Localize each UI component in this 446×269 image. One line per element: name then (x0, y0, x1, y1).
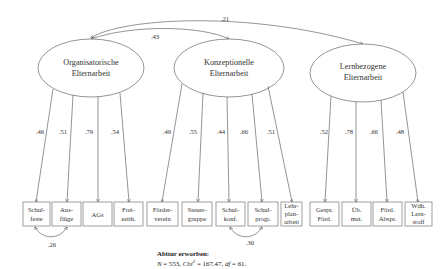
indicator-foerdabspr-l1: Förd. (380, 206, 394, 213)
latent-factor-lernbezogene: Lernbezogene Elternarbeit (310, 44, 416, 102)
indicator-ausfluege-l2: flüge (60, 215, 74, 222)
loading-value: .46 (36, 128, 45, 135)
indicator-schulprogr-l2: progr. (255, 215, 271, 222)
indicator-lehrplanarbeit-l3: arbeit (284, 218, 299, 225)
indicator-wdhlernstoff-l3: stoff (413, 218, 426, 225)
latent-factor-organisatorische: Organisatorische Elternarbeit (38, 39, 144, 97)
figure-caption: Abitur erworben: N = 553, Chi2 = 167.47,… (157, 250, 246, 268)
loading-value: .54 (111, 128, 120, 135)
indicator-wdhlernstoff-l2: Lern- (411, 210, 426, 217)
caption-n-value: = 553, (162, 260, 183, 267)
indicator-schulprogr-l1: Schul- (254, 206, 271, 213)
indicator-lehrplanarbeit-l1: Lehr- (284, 202, 299, 209)
indicator-schulfeste-l2: feste (30, 215, 43, 222)
indicator-lehrplanarbeit-l2: plan- (285, 210, 299, 217)
loading-value: .55 (189, 128, 198, 135)
loading-value: .66 (370, 128, 379, 135)
loading-value: .51 (59, 128, 67, 135)
loading-values: .46 .51 .79 .54 .49 .55 .44 .66 .51 .52 … (36, 128, 405, 135)
loading-value: .52 (320, 128, 328, 135)
caption-fit-stats: N = 553, Chi2 = 167.47, df = 61. (157, 258, 246, 268)
correlation-value-org-konz: .43 (151, 33, 160, 40)
indicator-gesprfoerd-l1: Gespr. (316, 206, 333, 213)
indicator-freizeit-l1: Frei- (122, 206, 135, 213)
indicator-uebmat-l2: mat. (351, 215, 363, 222)
latent-label-line1: Konzeptionelle (204, 58, 254, 67)
indicator-freizeit-l2: zeith. (121, 215, 136, 222)
latent-label-line1: Organisatorische (63, 58, 119, 67)
caption-title: Abitur erworben: (157, 250, 246, 258)
indicator-steuergruppe-l1: Steuer- (188, 206, 207, 213)
indicator-steuergruppe-l2: gruppe (188, 215, 206, 222)
indicator-gesprfoerd-l2: Förd. (317, 215, 331, 222)
caption-chi-label: Chi (183, 260, 193, 267)
caption-df-value: = 61. (230, 260, 246, 267)
latent-label-line2: Elternarbeit (72, 69, 111, 78)
residual-correlation-value-1: .26 (48, 241, 57, 248)
indicator-ags: AGs (91, 211, 104, 218)
latent-label-line1: Lernbezogene (340, 62, 387, 71)
indicator-schulfeste-l1: Schul- (28, 206, 45, 213)
indicator-foerderverein-l2: verein (154, 215, 171, 222)
loading-value: .66 (240, 128, 249, 135)
indicator-wdhlernstoff-l1: Wdh. (411, 202, 426, 209)
caption-chi-value: = 167.47, (195, 260, 225, 267)
loading-value: .51 (267, 128, 275, 135)
indicator-foerderverein-l1: Förder- (153, 206, 173, 213)
correlation-value-org-lern: .21 (221, 15, 229, 22)
loading-value: .49 (163, 128, 172, 135)
loading-value: .78 (345, 128, 354, 135)
indicator-schulkonf-l2: konf. (224, 215, 238, 222)
correlation-arc-org-konz (91, 29, 229, 40)
loading-value: .44 (217, 128, 226, 135)
latent-factor-konzeptionelle: Konzeptionelle Elternarbeit (174, 39, 284, 97)
sem-diagram: .21 .43 Organisatorische Elternarbeit Ko… (0, 0, 446, 269)
latent-label-line2: Elternarbeit (344, 73, 383, 82)
loading-value: .79 (85, 128, 94, 135)
latent-label-line2: Elternarbeit (210, 69, 249, 78)
loading-value: .48 (396, 128, 405, 135)
residual-correlation-value-2: .30 (246, 239, 255, 246)
indicator-schulkonf-l1: Schul- (222, 206, 239, 213)
indicator-foerdabspr-l2: Abspr. (379, 215, 397, 222)
residual-correlation-arc-1 (35, 227, 67, 237)
indicator-uebmat-l1: Üb. (352, 206, 362, 213)
residual-correlation-arc-2 (230, 227, 262, 237)
indicator-ausfluege-l1: Aus- (60, 206, 73, 213)
